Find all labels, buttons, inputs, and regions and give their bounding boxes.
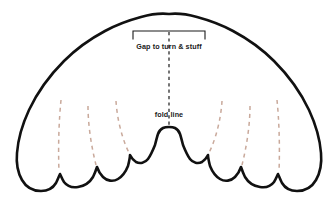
fold-line-label: fold line	[155, 110, 183, 119]
pattern-canvas: Gap to turn & stuff fold line	[0, 0, 333, 214]
gap-to-turn-label: Gap to turn & stuff	[136, 42, 202, 51]
angel-wings-pattern-diagram: Gap to turn & stuff fold line	[0, 0, 333, 214]
